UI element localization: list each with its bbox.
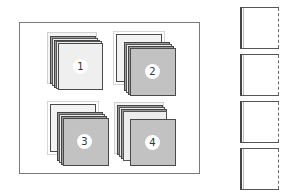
side-page-3-fold-line: [278, 102, 279, 142]
side-page-1-fold-line: [278, 8, 279, 48]
stack-3-number-badge: 3: [77, 134, 92, 149]
side-page-2-fold-line: [278, 55, 279, 95]
side-page-4-fold-line: [278, 149, 279, 189]
side-page-1: [240, 7, 279, 49]
side-page-4: [240, 148, 279, 190]
stack-1-number-badge: 1: [73, 59, 88, 74]
side-page-3: [240, 101, 279, 143]
side-page-1-edge: [243, 8, 244, 48]
side-page-3-edge: [243, 102, 244, 142]
stack-2-number-badge: 2: [145, 64, 160, 79]
stack-4-number-badge: 4: [145, 135, 160, 150]
side-page-4-edge: [243, 149, 244, 189]
side-page-2: [240, 54, 279, 96]
side-page-2-edge: [243, 55, 244, 95]
